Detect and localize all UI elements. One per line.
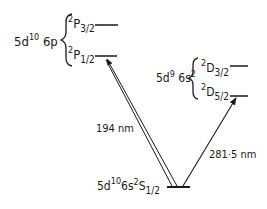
p-config-label: 5d10 6p: [14, 32, 58, 49]
label-194nm: 194 nm: [96, 122, 134, 135]
d-config-label: 5d9 6s2: [156, 69, 196, 85]
ground-state-label: 5d106s2S1/2: [97, 176, 160, 196]
transition-281nm: [183, 98, 236, 186]
term-2d3-2: 2D3/2: [201, 58, 229, 78]
label-281nm: 281·5 nm: [209, 148, 256, 161]
term-2p1-2: 2P1/2: [68, 45, 95, 65]
term-2p3-2: 2P3/2: [68, 14, 95, 34]
energy-level-diagram: 5d10 6p 2P3/2 2P1/2 5d9 6s2 2D3/2 2D5/2 …: [0, 0, 267, 209]
term-2d5-2: 2D5/2: [201, 82, 229, 102]
